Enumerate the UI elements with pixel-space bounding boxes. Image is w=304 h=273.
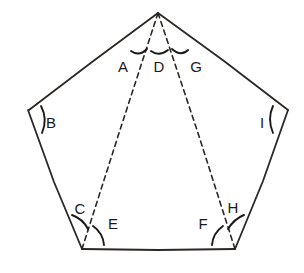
pentagon-svg-canvas — [0, 0, 304, 273]
angle-label-A: A — [118, 59, 128, 74]
edge-right-lower-to-right-upper — [235, 110, 288, 249]
angle-arc-C — [72, 215, 88, 229]
edge-apex-to-left-upper — [29, 13, 158, 110]
angle-label-D: D — [154, 59, 165, 74]
angle-label-E: E — [108, 216, 118, 231]
diagonal-apex-to-right-lower — [158, 13, 235, 249]
angle-label-G: G — [190, 59, 202, 74]
angle-label-F: F — [198, 216, 207, 231]
angle-label-I: I — [260, 115, 264, 130]
angle-arc-E — [93, 226, 104, 245]
angle-label-H: H — [228, 200, 239, 215]
pentagon-angle-diagram: A B C D E F G H I — [0, 0, 304, 273]
angle-arc-F — [212, 226, 223, 245]
angle-arc-G — [172, 49, 188, 53]
angle-label-B: B — [46, 115, 56, 130]
angle-arc-D — [151, 50, 168, 54]
pentagon-outline-group — [28, 13, 288, 250]
edge-bottom — [82, 249, 235, 250]
angle-arc-I — [270, 106, 273, 133]
edge-right-upper-to-apex — [158, 13, 288, 110]
angle-arc-A — [131, 49, 147, 54]
angle-label-C: C — [75, 201, 86, 216]
diagonals-group — [82, 13, 235, 249]
angle-arc-H — [228, 215, 244, 229]
angle-arc-B — [41, 106, 45, 133]
edge-left-upper-to-left-lower — [28, 110, 82, 249]
